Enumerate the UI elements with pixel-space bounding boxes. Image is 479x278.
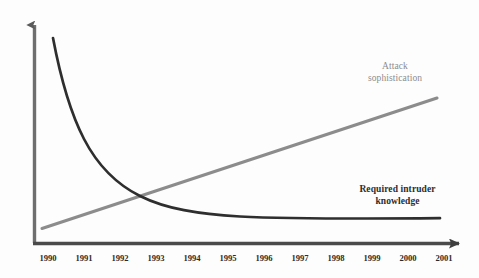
series-label-attack-sophistication: Attack sophistication	[332, 61, 458, 84]
series-label-required-intruder-knowledge: Required intruder knowledge	[330, 184, 465, 207]
x-tick-label-1995: 1995	[213, 253, 243, 263]
series-label-attack-line2: sophistication	[332, 73, 458, 85]
series-label-knowledge-line2: knowledge	[330, 196, 465, 208]
x-tick-label-1997: 1997	[285, 253, 315, 263]
x-tick-label-1990: 1990	[33, 253, 63, 263]
x-tick-label-1999: 1999	[357, 253, 387, 263]
series-label-knowledge-line1: Required intruder	[330, 184, 465, 196]
chart-container: Attack sophistication Required intruder …	[0, 0, 479, 278]
x-tick-label-2000: 2000	[393, 253, 423, 263]
x-tick-label-1991: 1991	[69, 253, 99, 263]
x-tick-label-1993: 1993	[141, 253, 171, 263]
chart-plot-area	[0, 0, 479, 278]
x-tick-label-1996: 1996	[249, 253, 279, 263]
x-tick-label-1994: 1994	[177, 253, 207, 263]
series-label-attack-line1: Attack	[332, 61, 458, 73]
x-tick-label-2001: 2001	[429, 253, 459, 263]
x-tick-label-1992: 1992	[105, 253, 135, 263]
x-tick-label-1998: 1998	[321, 253, 351, 263]
